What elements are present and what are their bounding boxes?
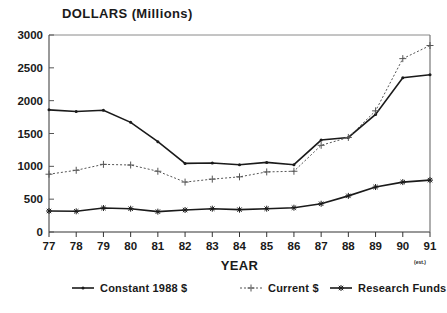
- legend-item-1[interactable]: Constant 1988 $: [72, 282, 187, 294]
- y-tick-label: 1500: [17, 128, 43, 140]
- series-line: [49, 75, 430, 165]
- x-tick-label: 83: [206, 240, 219, 252]
- x-tick-label: 90: [396, 240, 409, 252]
- x-axis: 777879808182838485868788899091: [43, 232, 437, 252]
- data-point-marker: [320, 139, 323, 142]
- data-point-marker: [292, 163, 295, 166]
- data-point-marker: [82, 287, 85, 290]
- data-point-marker: [156, 140, 159, 143]
- series-line: [49, 46, 430, 183]
- axes-frame: [49, 35, 430, 232]
- legend-item-3[interactable]: Research Funds: [330, 282, 446, 294]
- series-3: [46, 177, 433, 215]
- x-tick-label: 77: [43, 240, 56, 252]
- x-axis-footnote: (est.): [414, 259, 426, 265]
- x-tick-label: 88: [342, 240, 355, 252]
- data-point-marker: [429, 73, 432, 76]
- x-axis-title: YEAR: [221, 258, 259, 273]
- x-tick-label: 80: [124, 240, 137, 252]
- data-point-marker: [129, 121, 132, 124]
- x-tick-label: 81: [151, 240, 164, 252]
- legend-label: Current $: [268, 282, 319, 294]
- y-tick-label: 2500: [17, 62, 43, 74]
- y-tick-label: 500: [24, 193, 43, 205]
- x-tick-label: 82: [179, 240, 192, 252]
- chart-title: DOLLARS (Millions): [62, 6, 193, 21]
- x-tick-label: 85: [260, 240, 273, 252]
- y-tick-label: 3000: [17, 29, 43, 41]
- y-tick-label: 1000: [17, 160, 43, 172]
- line-chart: DOLLARS (Millions)0500100015002000250030…: [0, 0, 447, 313]
- chart-legend: Constant 1988 $Current $Research Funds: [72, 282, 446, 294]
- legend-label: Research Funds: [358, 282, 446, 294]
- legend-label: Constant 1988 $: [100, 282, 187, 294]
- x-tick-label: 84: [233, 240, 246, 252]
- y-tick-label: 2000: [17, 95, 43, 107]
- x-tick-label: 86: [288, 240, 301, 252]
- x-tick-label: 91: [424, 240, 437, 252]
- x-tick-label: 78: [70, 240, 83, 252]
- x-tick-label: 89: [369, 240, 382, 252]
- data-point-marker: [75, 110, 78, 113]
- legend-item-2[interactable]: Current $: [240, 282, 319, 294]
- series-1: [48, 73, 432, 166]
- data-point-marker: [211, 162, 214, 165]
- data-point-marker: [102, 109, 105, 112]
- data-point-marker: [265, 161, 268, 164]
- y-tick-label: 0: [37, 226, 43, 238]
- data-point-marker: [184, 162, 187, 165]
- data-point-marker: [48, 108, 51, 111]
- data-point-marker: [401, 76, 404, 79]
- x-tick-label: 79: [97, 240, 110, 252]
- x-tick-label: 87: [315, 240, 328, 252]
- data-point-marker: [238, 163, 241, 166]
- chart-figure: DOLLARS (Millions)0500100015002000250030…: [0, 0, 447, 313]
